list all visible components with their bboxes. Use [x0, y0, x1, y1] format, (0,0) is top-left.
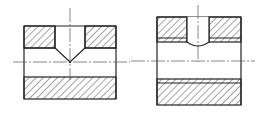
left-top-right-hatch	[85, 26, 116, 48]
left-bottom-hatch	[24, 77, 116, 99]
drawing-canvas	[0, 0, 261, 113]
right-section-view	[131, 5, 255, 105]
left-section-view	[13, 8, 130, 99]
left-top-left-hatch	[24, 26, 55, 48]
